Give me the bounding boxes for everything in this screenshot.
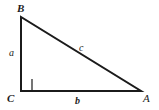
- triangle-outline: [21, 17, 141, 91]
- triangle-drawing: [0, 0, 159, 110]
- side-label-c: c: [79, 43, 83, 53]
- vertex-label-b: B: [17, 3, 24, 14]
- side-label-a: a: [9, 48, 14, 58]
- right-angle-marker-icon: [21, 79, 32, 91]
- right-triangle-figure: B C A a b c: [0, 0, 159, 110]
- side-label-b: b: [75, 96, 80, 106]
- vertex-label-a: A: [143, 93, 150, 104]
- vertex-label-c: C: [7, 93, 14, 104]
